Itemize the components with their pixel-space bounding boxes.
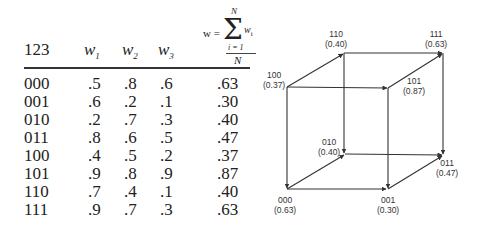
hypercube-diagram: 110(0.40) 111(0.63) 100(0.37) 101(0.87) … (260, 0, 477, 225)
vertex-label-001: 001(0.30) (377, 195, 399, 215)
table-row: 110 .7 .4 .1 .40 (0, 182, 260, 200)
formula-lower-limit: i = 1 (228, 43, 244, 52)
formula-lhs: w = (203, 27, 220, 39)
table-row: 111 .9 .7 .3 .63 (0, 200, 260, 218)
formula-term: wi (244, 24, 253, 38)
formula-denominator: N (234, 54, 241, 66)
average-weight-formula: w = N Σ wi i = 1 N (203, 6, 263, 66)
vertex-label-101: 101(0.87) (403, 76, 425, 96)
vertex-label-000: 000(0.63) (274, 195, 296, 215)
table-row: 101 .9 .8 .9 .87 (0, 164, 260, 182)
vertex-label-100: 100(0.37) (263, 70, 285, 90)
vertex-label-110: 110(0.40) (325, 29, 347, 49)
sigma-symbol: Σ (223, 16, 243, 44)
table-row: 100 .4 .5 .2 .37 (0, 146, 260, 164)
header-w3: w3 (158, 40, 174, 61)
table-row: 011 .8 .6 .5 .47 (0, 128, 260, 146)
vertex-label-011: 011(0.47) (436, 158, 458, 178)
weights-table: 123 w1 w2 w3 w = N Σ wi i = 1 N 000 .5 .… (0, 0, 260, 225)
table-row: 001 .6 .2 .1 .30 (0, 92, 260, 110)
table-row: 010 .2 .7 .3 .40 (0, 110, 260, 128)
header-rule (24, 67, 250, 69)
vertex-label-111: 111(0.63) (425, 29, 447, 49)
header-w1: w1 (84, 40, 100, 61)
header-w2: w2 (122, 40, 138, 61)
vertex-label-010: 010(0.40) (318, 137, 340, 157)
header-code: 123 (24, 40, 50, 60)
table-row: 000 .5 .8 .6 .63 (0, 74, 260, 92)
